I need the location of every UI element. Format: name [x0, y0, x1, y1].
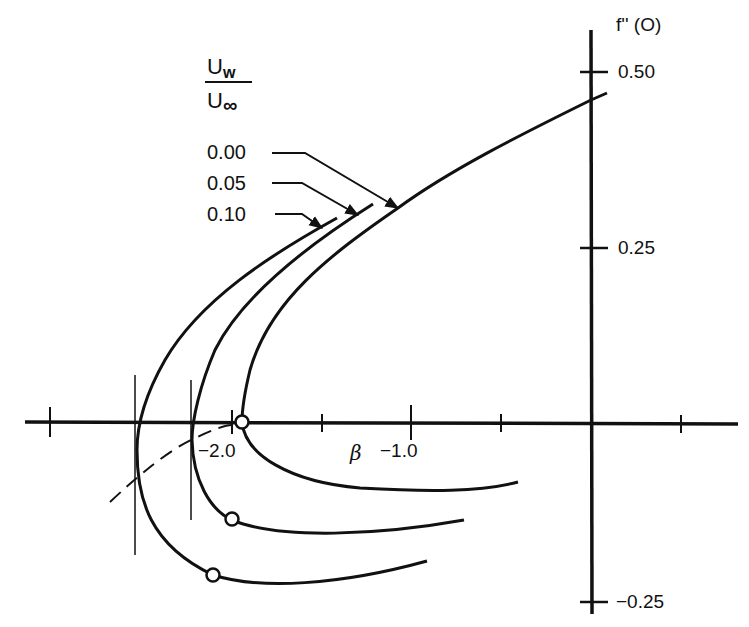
legend-title-numerator: Uw: [207, 54, 235, 80]
legend-leaders: [272, 153, 398, 228]
chart-canvas: [0, 0, 749, 627]
x-tick-label-neg1.0: −1.0: [380, 440, 418, 462]
limit-lines: [135, 375, 191, 555]
curve-0.10: [137, 218, 427, 583]
legend-title-denominator: U∞: [207, 88, 237, 114]
y-axis: [591, 30, 592, 614]
legend-value-0.05: 0.05: [207, 172, 246, 195]
legend-den-sub: ∞: [223, 94, 237, 116]
x-tick-label-neg2.0: −2.0: [198, 440, 236, 462]
y-axis-ticks: [580, 72, 608, 602]
y-tick-label-0.25: 0.25: [618, 237, 655, 259]
y-tick-label-0.50: 0.50: [618, 61, 655, 83]
x-axis: [25, 422, 738, 424]
legend-num-sub: w: [223, 64, 235, 81]
legend-den-text: U: [207, 88, 223, 113]
y-tick-label-neg0.25: −0.25: [616, 591, 664, 613]
x-axis-title-beta: β: [350, 441, 362, 465]
dashed-locus-curve: [110, 425, 232, 502]
legend-value-0.10: 0.10: [207, 203, 246, 226]
legend-num-text: U: [207, 54, 223, 79]
y-axis-title: f'' (O): [616, 14, 661, 36]
legend-value-0.00: 0.00: [207, 141, 246, 164]
